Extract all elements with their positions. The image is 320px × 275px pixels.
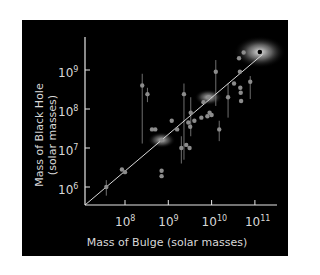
y-tick-label: 106 <box>58 181 78 196</box>
data-point <box>239 99 243 103</box>
fit-line <box>85 54 263 205</box>
y-axis-label-line1: Mass of Black Hole <box>33 65 46 205</box>
data-point <box>239 91 243 95</box>
x-tick-label: 1011 <box>245 213 270 228</box>
y-axis-label: Mass of Black Hole (solar masses) <box>33 65 59 205</box>
chart-panel: 106107108109 10810910101011 Mass of Blac… <box>22 20 288 256</box>
data-point <box>206 95 210 99</box>
data-point <box>186 120 190 124</box>
data-point <box>201 100 205 104</box>
data-point <box>179 146 183 150</box>
y-axis-label-line2: (solar masses) <box>46 65 59 205</box>
data-point <box>192 119 196 123</box>
y-tick-label: 108 <box>58 103 78 118</box>
highlight-glows <box>148 36 286 148</box>
data-point <box>153 127 157 131</box>
data-point <box>248 80 252 84</box>
data-point <box>175 127 179 131</box>
data-point <box>145 92 149 96</box>
data-point <box>238 86 242 90</box>
data-point <box>189 111 193 115</box>
data-point <box>209 113 213 117</box>
data-point <box>217 127 221 131</box>
x-axis-label: Mass of Bulge (solar masses) <box>34 236 300 249</box>
data-point <box>159 138 163 142</box>
x-tick-label: 108 <box>115 213 135 228</box>
x-tick-label: 1010 <box>202 213 227 228</box>
data-point <box>214 70 218 74</box>
data-point <box>241 50 245 54</box>
data-point <box>104 185 108 189</box>
y-tick-label: 107 <box>58 142 78 157</box>
y-tick-label: 109 <box>58 64 78 79</box>
data-point <box>170 119 174 123</box>
data-point <box>159 174 163 178</box>
data-point <box>238 70 242 74</box>
x-tick-label: 109 <box>158 213 178 228</box>
data-point <box>258 50 263 55</box>
data-point <box>184 143 188 147</box>
data-point <box>159 169 163 173</box>
data-point <box>123 170 127 174</box>
data-point <box>140 83 144 87</box>
data-point <box>237 56 241 60</box>
data-point <box>226 95 230 99</box>
data-point <box>187 146 191 150</box>
data-point <box>199 115 203 119</box>
data-point <box>182 92 186 96</box>
data-point <box>188 125 192 129</box>
data-point <box>232 81 236 85</box>
